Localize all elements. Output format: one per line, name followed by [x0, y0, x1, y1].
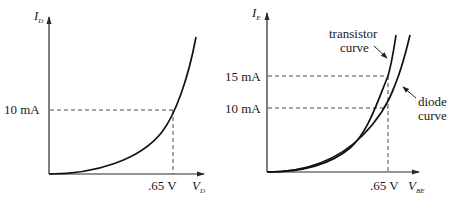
- transistor-curve-annotation-line1: transistor: [329, 26, 378, 41]
- right-plot: IE 15 mA 10 mA .65 V VBE transistor curv…: [225, 5, 447, 195]
- right-transistor-curve: [267, 35, 396, 172]
- left-10ma-label: 10 mA: [4, 102, 40, 117]
- transistor-curve-pointer-arrow: [374, 46, 387, 58]
- right-10ma-label: 10 mA: [225, 101, 261, 116]
- left-x-axis-label: VD: [192, 178, 205, 195]
- left-y-axis-label: ID: [33, 8, 43, 25]
- right-x-axis-label: VBE: [408, 178, 425, 195]
- right-y-axis-label: IE: [251, 5, 261, 22]
- diode-curve-annotation-line1: diode: [418, 94, 447, 109]
- right-15ma-label: 15 mA: [225, 69, 261, 84]
- diode-curve-annotation-line2: curve: [418, 108, 447, 123]
- left-diode-curve: [49, 37, 196, 174]
- left-065v-label: .65 V: [148, 178, 177, 193]
- left-plot: ID 10 mA .65 V VD: [4, 8, 205, 195]
- diode-curve-pointer-arrow: [403, 87, 416, 98]
- transistor-curve-annotation-line2: curve: [340, 40, 369, 55]
- right-diode-curve: [267, 35, 410, 172]
- right-065v-label: .65 V: [370, 178, 399, 193]
- diode-transistor-curves-figure: ID 10 mA .65 V VD IE 15 mA 10 mA .65 V V…: [0, 0, 455, 202]
